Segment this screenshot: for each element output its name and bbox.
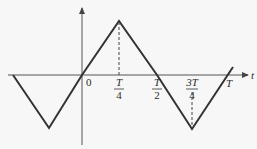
svg-text:4: 4 — [116, 89, 122, 101]
period-label: T — [226, 77, 233, 89]
tick-three-quarter: 3T 4 — [185, 76, 199, 101]
svg-text:3T: 3T — [185, 76, 199, 88]
svg-text:2: 2 — [154, 89, 160, 101]
t-axis-label: t — [251, 69, 255, 81]
svg-text:T: T — [116, 76, 123, 88]
origin-label: 0 — [86, 76, 92, 88]
svg-text:4: 4 — [189, 89, 195, 101]
tick-quarter: T 4 — [114, 76, 124, 101]
svg-text:T: T — [154, 76, 161, 88]
triangle-wave-diagram: 0 t T 4 T 2 3T 4 T — [0, 0, 257, 149]
